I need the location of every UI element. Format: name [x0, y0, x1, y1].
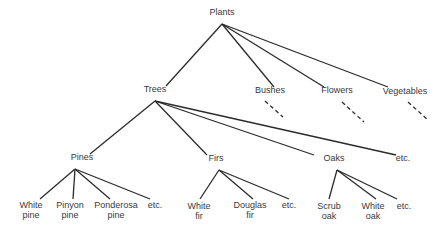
continuation-dashes	[265, 101, 428, 122]
tree-edge	[219, 170, 289, 199]
node-white-oak: Whiteoak	[361, 201, 384, 221]
continuation-dash	[342, 102, 364, 122]
node-firs: Firs	[209, 153, 224, 163]
node-oaks-etc: etc.	[397, 201, 412, 211]
continuation-dash	[265, 101, 283, 117]
node-trees: Trees	[144, 84, 167, 94]
tree-edge	[337, 170, 376, 199]
node-trees-etc: etc.	[396, 153, 411, 163]
tree-edge	[200, 170, 219, 199]
node-vegetables: Vegetables	[383, 86, 428, 96]
tree-edge	[337, 170, 397, 199]
node-flowers: Flowers	[321, 85, 353, 95]
node-douglas-fir: Douglasfir	[233, 200, 266, 220]
tree-edge	[219, 170, 253, 199]
tree-edge	[75, 169, 150, 199]
node-pines-etc: etc.	[148, 200, 163, 210]
node-scrub-oak: Scruboak	[317, 201, 341, 221]
tree-edge	[75, 169, 110, 199]
tree-edge	[155, 101, 396, 155]
node-white-fir: Whitefir	[187, 201, 210, 221]
node-pinyon-pine: Pinyonpine	[56, 200, 84, 220]
tree-edge	[73, 169, 75, 199]
node-bushes: Bushes	[255, 85, 285, 95]
tree-edges	[40, 24, 397, 199]
node-ponderosa-pine: Ponderosapine	[94, 200, 138, 220]
node-white-pine: Whitepine	[19, 200, 42, 220]
tree-edge	[222, 24, 324, 87]
node-plants: Plants	[209, 7, 234, 17]
continuation-dash	[408, 102, 428, 120]
node-firs-etc: etc.	[282, 200, 297, 210]
tree-edge	[155, 101, 207, 155]
node-oaks: Oaks	[323, 153, 344, 163]
tree-edge	[329, 170, 337, 199]
tree-edge	[222, 24, 388, 87]
node-pines: Pines	[71, 152, 94, 162]
tree-edge	[166, 24, 222, 86]
tree-edge	[90, 101, 155, 154]
tree-edge	[155, 101, 314, 155]
tree-edge	[40, 169, 75, 199]
